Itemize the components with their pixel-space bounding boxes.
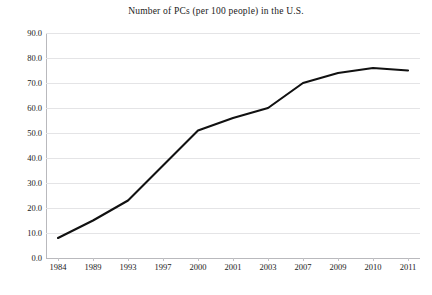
y-tick-label: 90.0 — [2, 28, 42, 38]
y-tick-label: 80.0 — [2, 53, 42, 63]
y-tick-label: 70.0 — [2, 78, 42, 88]
x-tick-mark — [268, 258, 269, 261]
x-tick-label: 2007 — [295, 262, 312, 272]
x-tick-mark — [373, 258, 374, 261]
y-tick-label: 10.0 — [2, 228, 42, 238]
chart-title: Number of PCs (per 100 people) in the U.… — [0, 6, 432, 16]
x-tick-label: 1997 — [155, 262, 172, 272]
x-tick-label: 1993 — [120, 262, 137, 272]
y-tick-label: 60.0 — [2, 103, 42, 113]
x-tick-mark — [163, 258, 164, 261]
y-tick-label: 20.0 — [2, 203, 42, 213]
x-tick-mark — [58, 258, 59, 261]
x-tick-mark — [408, 258, 409, 261]
x-tick-label: 2011 — [400, 262, 417, 272]
gridline — [46, 58, 420, 59]
x-tick-label: 2001 — [225, 262, 242, 272]
gridline — [46, 83, 420, 84]
x-tick-label: 1989 — [85, 262, 102, 272]
gridline — [46, 183, 420, 184]
gridline — [46, 208, 420, 209]
x-tick-mark — [338, 258, 339, 261]
x-tick-label: 2003 — [260, 262, 277, 272]
gridline — [46, 158, 420, 159]
gridline — [46, 108, 420, 109]
y-axis-labels: 90.080.070.060.050.040.030.020.010.00.0 — [0, 0, 42, 295]
gridline — [46, 33, 420, 34]
x-tick-mark — [233, 258, 234, 261]
gridline — [46, 233, 420, 234]
x-tick-mark — [93, 258, 94, 261]
x-tick-label: 1984 — [50, 262, 67, 272]
y-tick-label: 0.0 — [2, 253, 42, 263]
x-tick-mark — [198, 258, 199, 261]
x-tick-label: 2010 — [365, 262, 382, 272]
x-tick-label: 2009 — [330, 262, 347, 272]
y-tick-label: 40.0 — [2, 153, 42, 163]
gridline — [46, 133, 420, 134]
y-tick-label: 30.0 — [2, 178, 42, 188]
x-tick-mark — [128, 258, 129, 261]
x-tick-mark — [303, 258, 304, 261]
x-tick-label: 2000 — [190, 262, 207, 272]
chart-container: Number of PCs (per 100 people) in the U.… — [0, 0, 432, 295]
plot-area — [46, 33, 420, 258]
y-tick-label: 50.0 — [2, 128, 42, 138]
x-axis-labels: 1984198919931997200020012003200720092010… — [46, 262, 420, 282]
